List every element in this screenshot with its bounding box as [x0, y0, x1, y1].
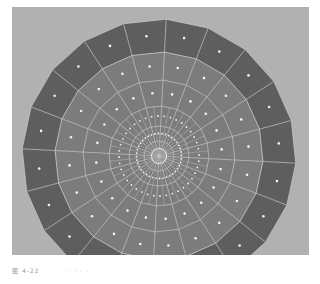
face-dot	[218, 50, 221, 53]
face-dot	[155, 177, 157, 179]
face-dot	[165, 134, 167, 136]
face-dot	[240, 118, 243, 121]
face-dot	[139, 120, 141, 122]
face-dot	[170, 117, 172, 119]
face-dot	[77, 65, 80, 68]
face-dot	[174, 171, 176, 173]
face-dot	[169, 175, 171, 177]
face-dot	[191, 178, 193, 180]
center-vertex	[151, 156, 152, 157]
face-dot	[174, 139, 176, 141]
face-dot	[95, 161, 98, 164]
face-dot	[136, 156, 138, 158]
face-dot	[176, 67, 179, 70]
center-vertex	[153, 151, 154, 152]
center-vertex	[166, 156, 167, 157]
center-vertex	[151, 154, 152, 155]
face-dot	[276, 180, 279, 183]
face-dot	[181, 155, 183, 157]
center-vertex	[154, 161, 155, 162]
face-dot	[126, 180, 128, 182]
face-dot	[138, 145, 140, 147]
face-dot	[145, 174, 147, 176]
face-dot	[119, 162, 121, 164]
face-dot	[193, 136, 195, 138]
center-vertex	[155, 162, 156, 163]
center-vertex	[152, 160, 153, 161]
face-dot	[262, 215, 265, 218]
face-dot	[153, 195, 155, 197]
center-vertex	[158, 163, 159, 164]
face-dot	[215, 129, 218, 132]
face-dot	[212, 186, 215, 189]
face-dot	[142, 140, 144, 142]
face-dot	[183, 187, 185, 189]
face-dot	[98, 88, 101, 91]
face-dot	[120, 169, 122, 171]
center-vertex	[158, 148, 159, 149]
face-dot	[278, 142, 281, 145]
center-vertex	[165, 158, 166, 159]
center-vertex	[152, 159, 153, 160]
face-dot	[178, 144, 180, 146]
face-dot	[166, 176, 168, 178]
3d-viewport[interactable]	[12, 7, 309, 255]
face-dot	[103, 123, 106, 126]
face-dot	[196, 142, 198, 144]
face-dot	[180, 151, 182, 153]
face-dot	[172, 193, 174, 195]
center-vertex	[162, 162, 163, 163]
center-vertex	[154, 149, 155, 150]
face-dot	[68, 235, 71, 238]
face-dot	[181, 122, 183, 124]
face-dot	[194, 237, 197, 240]
center-vertex	[159, 163, 160, 164]
face-dot	[136, 152, 138, 154]
face-dot	[122, 138, 124, 140]
face-dot	[135, 188, 137, 190]
face-dot	[162, 177, 164, 179]
face-dot	[118, 150, 120, 152]
face-dot	[151, 134, 153, 136]
face-dot	[147, 194, 149, 196]
face-dot	[159, 178, 161, 180]
center-vertex	[165, 151, 166, 152]
face-dot	[190, 131, 192, 133]
face-dot	[76, 191, 79, 194]
face-dot	[145, 35, 148, 38]
face-dot	[198, 154, 200, 156]
face-dot	[171, 137, 173, 139]
face-dot	[175, 119, 177, 121]
face-dot	[100, 180, 103, 183]
face-dot	[167, 244, 170, 247]
face-dot	[197, 148, 199, 150]
face-dot	[140, 142, 142, 144]
face-dot	[268, 106, 271, 109]
face-dot	[200, 202, 203, 205]
face-dot	[186, 126, 188, 128]
face-dot	[136, 159, 138, 161]
center-vertex	[163, 150, 164, 151]
face-dot	[139, 243, 142, 246]
face-dot	[125, 132, 127, 134]
face-dot	[40, 130, 43, 133]
center-vertex	[160, 148, 161, 149]
face-dot	[225, 95, 228, 98]
face-dot	[157, 115, 159, 117]
face-dot	[148, 65, 151, 68]
face-dot	[205, 113, 208, 116]
disc-mesh	[12, 7, 309, 255]
face-dot	[80, 110, 83, 113]
face-dot	[165, 194, 167, 196]
center-vertex	[163, 162, 164, 163]
face-dot	[147, 135, 149, 137]
face-dot	[163, 115, 165, 117]
face-dot	[91, 215, 94, 218]
face-dot	[203, 77, 206, 80]
face-dot	[236, 200, 239, 203]
center-vertex	[155, 149, 156, 150]
center-vertex	[157, 163, 158, 164]
face-dot	[109, 45, 112, 48]
face-dot	[68, 164, 71, 167]
face-dot	[123, 174, 125, 176]
